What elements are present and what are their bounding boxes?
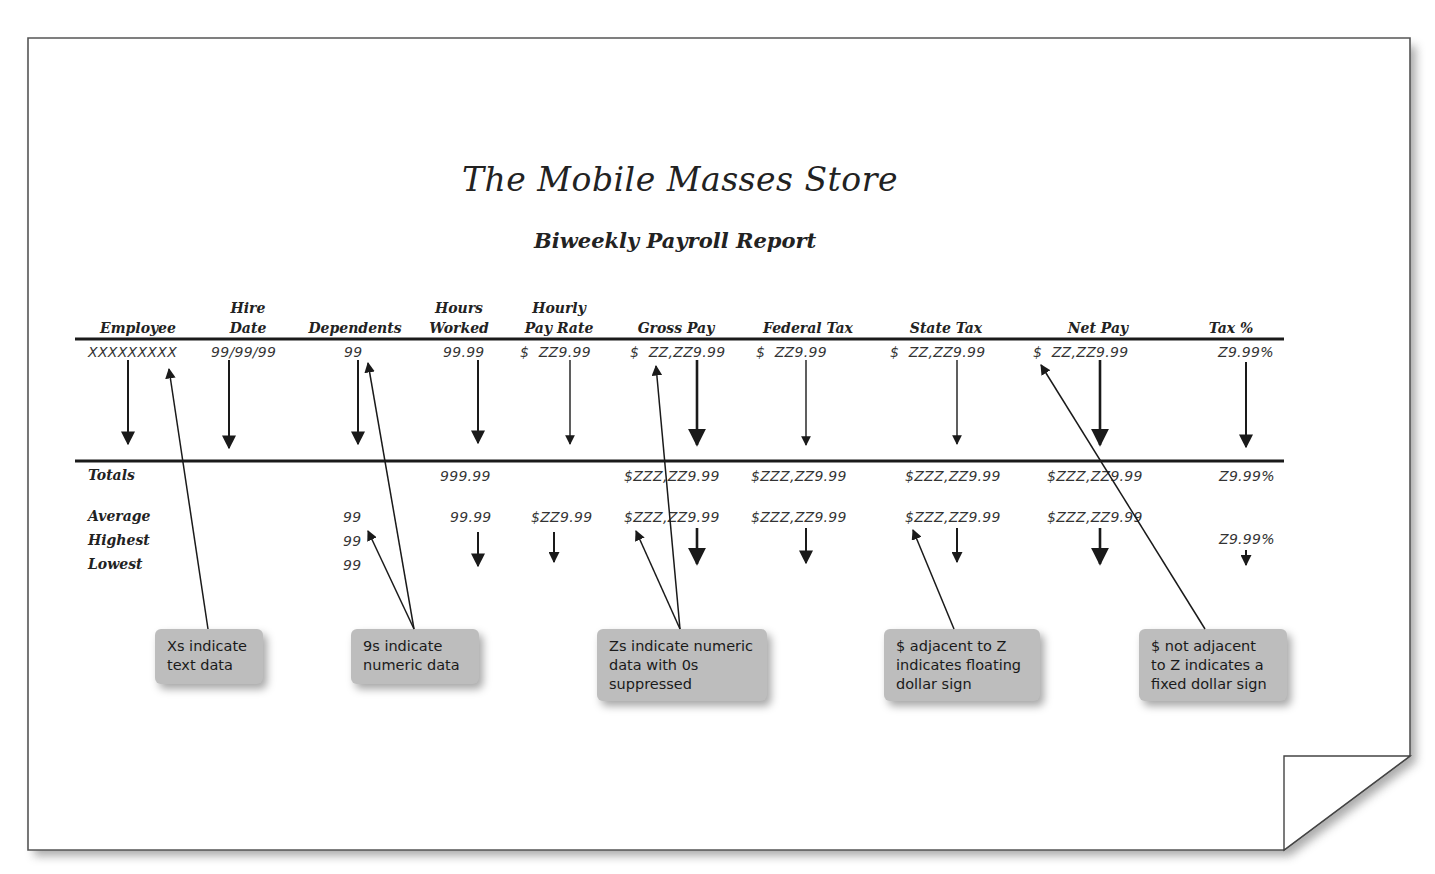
lowest-label: Lowest <box>88 556 143 572</box>
detail-hours: 99.99 <box>443 344 485 360</box>
average-state: $ZZZ,ZZ9.99 <box>905 509 1001 525</box>
totals-hours: 999.99 <box>440 468 491 484</box>
detail-tax-pct: Z9.99% <box>1218 344 1274 360</box>
header-hire-date: HireDate <box>208 298 288 338</box>
detail-state: $ ZZ,ZZ9.99 <box>890 344 985 360</box>
header-tax-percent: Tax % <box>1196 298 1266 338</box>
lowest-dependents: 99 <box>343 557 361 573</box>
header-dependents: Dependents <box>300 298 410 338</box>
detail-net: $ ZZ,ZZ9.99 <box>1033 344 1128 360</box>
callout-numeric-data: 9s indicate numeric data <box>351 629 479 684</box>
average-rate: $ZZ9.99 <box>531 509 592 525</box>
totals-state: $ZZZ,ZZ9.99 <box>905 468 1001 484</box>
detail-dependents: 99 <box>344 344 362 360</box>
totals-net: $ZZZ,ZZ9.99 <box>1047 468 1143 484</box>
totals-label: Totals <box>88 467 135 483</box>
callout-zero-suppressed: Zs indicate numeric data with 0s suppres… <box>597 629 767 701</box>
callout-floating-dollar: $ adjacent to Z indicates floating dolla… <box>884 629 1040 701</box>
average-hours: 99.99 <box>450 509 492 525</box>
detail-employee: XXXXXXXXX <box>88 344 177 360</box>
detail-hire-date: 99/99/99 <box>211 344 276 360</box>
average-label: Average <box>88 508 150 524</box>
report-subtitle: Biweekly Payroll Report <box>534 228 816 253</box>
totals-tax-pct: Z9.99% <box>1219 468 1275 484</box>
header-state-tax: State Tax <box>896 298 996 338</box>
highest-dependents: 99 <box>343 533 361 549</box>
totals-gross: $ZZZ,ZZ9.99 <box>624 468 720 484</box>
average-federal: $ZZZ,ZZ9.99 <box>751 509 847 525</box>
header-gross-pay: Gross Pay <box>626 298 726 338</box>
highest-label: Highest <box>88 532 150 548</box>
header-federal-tax: Federal Tax <box>750 298 866 338</box>
header-employee: Employee <box>88 298 188 338</box>
average-gross: $ZZZ,ZZ9.99 <box>624 509 720 525</box>
detail-rate: $ ZZ9.99 <box>520 344 591 360</box>
report-title: The Mobile Masses Store <box>462 160 898 199</box>
average-dependents: 99 <box>343 509 361 525</box>
header-hourly-pay-rate: HourlyPay Rate <box>514 298 604 338</box>
highest-tax-pct: Z9.99% <box>1219 531 1275 547</box>
detail-gross: $ ZZ,ZZ9.99 <box>630 344 725 360</box>
average-net: $ZZZ,ZZ9.99 <box>1047 509 1143 525</box>
callout-text-data: Xs indicate text data <box>155 629 263 684</box>
header-hours-worked: HoursWorked <box>420 298 498 338</box>
detail-federal: $ ZZ9.99 <box>756 344 827 360</box>
report-layout: The Mobile Masses Store Biweekly Payroll… <box>0 0 1435 874</box>
header-net-pay: Net Pay <box>1050 298 1146 338</box>
callout-fixed-dollar: $ not adjacent to Z indicates a fixed do… <box>1139 629 1287 701</box>
totals-federal: $ZZZ,ZZ9.99 <box>751 468 847 484</box>
